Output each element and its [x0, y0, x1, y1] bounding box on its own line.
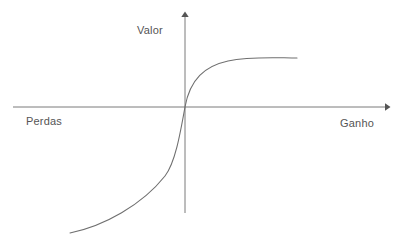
x-axis-arrow-icon	[385, 103, 391, 111]
value-function-curve	[70, 58, 297, 233]
figure-canvas: Valor Perdas Ganho	[0, 0, 401, 245]
x-axis-label-ganho: Ganho	[340, 117, 374, 129]
x-axis-label-perdas: Perdas	[26, 115, 62, 127]
y-axis-arrow-icon	[181, 12, 188, 18]
y-axis-label-valor: Valor	[137, 24, 163, 36]
